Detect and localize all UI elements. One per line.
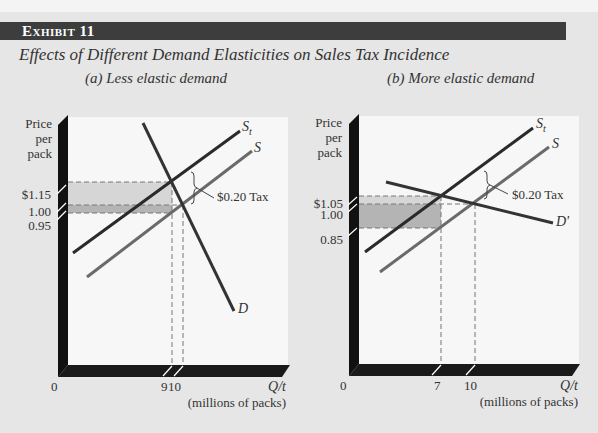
panel-b-x-unit: (millions of packs) — [480, 394, 578, 409]
panel-a-x-tick-10: 10 — [168, 379, 181, 394]
panel-b-x-label: Q/t — [560, 378, 579, 393]
panel-a: $0.20 Tax St S D Price per pack $1.15 1.… — [22, 115, 290, 410]
panel-b-y-label-3: pack — [317, 145, 342, 160]
panel-a-tax-label: $0.20 Tax — [217, 189, 269, 204]
panel-a-y-label-1: Price — [25, 116, 52, 131]
panel-b-y-tick-3: 0.85 — [320, 232, 343, 247]
panel-a-y-label-2: per — [35, 131, 52, 146]
panel-a-y-tick-1: $1.15 — [22, 187, 51, 202]
panel-b-d-label: D' — [555, 214, 570, 229]
panel-b-consumer-burden — [359, 196, 441, 204]
panel-a-y-axis-bar — [58, 115, 68, 377]
panel-b-y-axis-bar — [349, 114, 359, 376]
panel-b-x-tick-7: 7 — [434, 378, 441, 393]
panel-b-y-label-2: per — [325, 130, 342, 145]
panel-a-x-label: Q/t — [268, 379, 287, 394]
panel-a-x-tick-9: 9 — [161, 379, 168, 394]
panel-b-y-label-1: Price — [315, 115, 342, 130]
panel-a-y-tick-2: 1.00 — [28, 204, 51, 219]
panel-a-s-label: S — [254, 140, 261, 155]
panel-b-s-label: S — [552, 136, 559, 151]
panel-a-x-unit: (millions of packs) — [188, 395, 286, 410]
panel-b-x-tick-10: 10 — [464, 378, 477, 393]
panel-a-y-tick-3: 0.95 — [28, 218, 51, 233]
panel-a-y-label-3: pack — [27, 146, 52, 161]
panel-b-x-tick-0: 0 — [340, 378, 347, 393]
panel-a-d-label: D — [237, 301, 248, 316]
panel-b-y-tick-2: 1.00 — [320, 207, 343, 222]
charts-canvas: $0.20 Tax St S D Price per pack $1.15 1.… — [0, 0, 598, 433]
panel-a-x-tick-0: 0 — [51, 379, 58, 394]
panel-b-x-axis-bar — [349, 364, 580, 376]
panel-b: $0.20 Tax St S D' Price per pack $1.05 1… — [314, 114, 580, 409]
panel-b-tax-label: $0.20 Tax — [512, 187, 564, 202]
panel-b-plot-area — [359, 116, 579, 364]
panel-a-producer-burden — [68, 205, 172, 213]
